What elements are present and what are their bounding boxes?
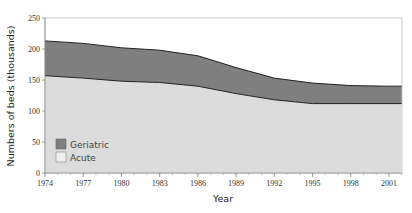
x-tick-label: 1998	[343, 179, 359, 188]
y-tick-label: 150	[28, 76, 40, 85]
x-tick-label: 2001	[381, 179, 397, 188]
legend-swatch-geriatric	[56, 139, 66, 149]
y-tick-label: 200	[28, 45, 40, 54]
legend-label-acute: Acute	[70, 153, 96, 163]
plot-area	[45, 18, 402, 173]
legend-label-geriatric: Geriatric	[70, 140, 109, 150]
x-tick-label: 1977	[75, 179, 91, 188]
legend-swatch-acute	[56, 152, 66, 162]
x-tick-label: 1974	[37, 179, 53, 188]
x-tick-label: 1986	[190, 179, 206, 188]
y-tick-label: 50	[32, 138, 40, 147]
y-tick-label: 250	[28, 14, 40, 23]
x-tick-label: 1989	[228, 179, 244, 188]
y-tick-label: 100	[28, 107, 40, 116]
y-tick-label: 0	[36, 169, 40, 178]
x-tick-label: 1983	[152, 179, 168, 188]
y-axis-title: Numbers of beds (thousands)	[5, 26, 16, 167]
x-tick-label: 1992	[266, 179, 282, 188]
x-axis-title: Year	[212, 193, 233, 204]
x-tick-label: 1995	[305, 179, 321, 188]
stacked-area-chart: 0501001502002501974197719801983198619891…	[0, 0, 412, 213]
x-tick-label: 1980	[113, 179, 129, 188]
